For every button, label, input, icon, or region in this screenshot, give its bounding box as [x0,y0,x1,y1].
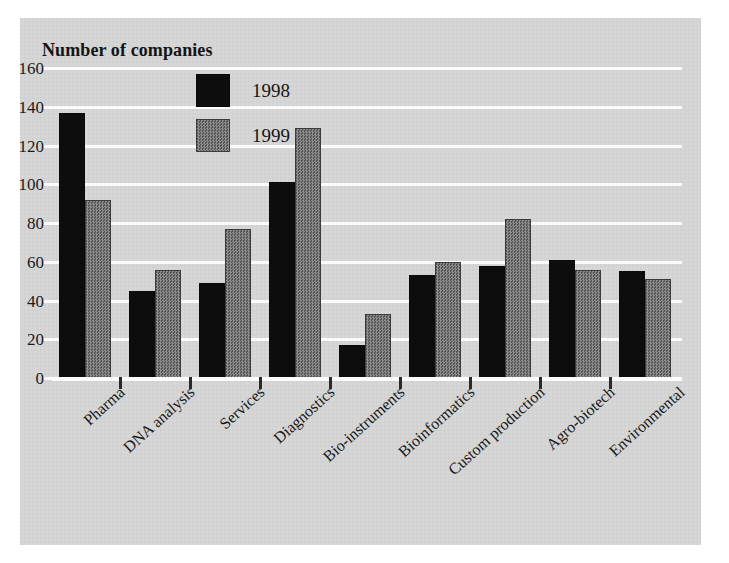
y-axis-tick-mark [43,106,52,109]
x-axis-line [52,377,682,381]
y-axis-tick-label: 40 [4,292,44,309]
chart-legend: 1998 1999 [196,74,290,164]
x-axis-label: Diagnostics [271,384,338,446]
legend-swatch-1998-icon [196,74,230,107]
legend-item-1998: 1998 [196,74,290,107]
y-axis-tick-label: 160 [4,60,44,77]
legend-label-1999: 1999 [252,126,290,145]
bar-group [619,68,671,378]
bar-group [129,68,181,378]
x-axis-label: Services [217,384,268,432]
y-axis-tick-labels: 020406080100120140160 [4,68,44,378]
y-axis-tick-label: 20 [4,331,44,348]
y-axis-tick-mark [43,145,52,148]
bar-1998 [409,275,435,378]
legend-item-1999: 1999 [196,119,290,152]
bar-1998 [269,182,295,378]
x-axis-category-labels: PharmaDNA analysisServicesDiagnosticsBio… [52,384,712,534]
y-axis-tick-mark [43,261,52,264]
bar-1998 [129,291,155,378]
y-axis-tick-mark [43,377,52,380]
x-axis-label: Agro-biotech [544,384,618,453]
bar-1999 [295,128,321,378]
bar-chart-figure: Number of companies 02040608010012014016… [0,0,729,563]
bar-1998 [479,266,505,378]
bar-group [549,68,601,378]
bar-1999 [505,219,531,378]
bar-group [409,68,461,378]
bar-1999 [225,229,251,378]
chart-title: Number of companies [42,40,213,61]
y-axis-tick-mark [43,183,52,186]
x-axis-label: Pharma [81,384,128,429]
bar-1999 [85,200,111,378]
bar-1999 [645,279,671,378]
bar-1999 [575,270,601,379]
plot-area [52,68,682,378]
legend-swatch-1999-icon [196,119,230,152]
y-axis-tick-label: 80 [4,215,44,232]
bar-group [479,68,531,378]
y-axis-tick-label: 100 [4,176,44,193]
y-axis-tick-mark [43,67,52,70]
bar-1998 [339,345,365,378]
x-axis-label: DNA analysis [121,384,198,456]
bar-group [339,68,391,378]
bar-1999 [365,314,391,378]
y-axis-tick-label: 60 [4,253,44,270]
x-axis-label: Environmental [606,384,687,460]
bar-1999 [435,262,461,378]
bar-1999 [155,270,181,379]
y-axis-tick-mark [43,338,52,341]
y-axis-tick-label: 120 [4,137,44,154]
bar-group [59,68,111,378]
bar-1998 [619,271,645,378]
y-axis-tick-label: 140 [4,98,44,115]
bar-1998 [199,283,225,378]
bar-1998 [59,113,85,378]
y-axis-tick-label: 0 [4,370,44,387]
bar-1998 [549,260,575,378]
legend-label-1998: 1998 [252,81,290,100]
y-axis-tick-mark [43,222,52,225]
y-axis-tick-mark [43,300,52,303]
